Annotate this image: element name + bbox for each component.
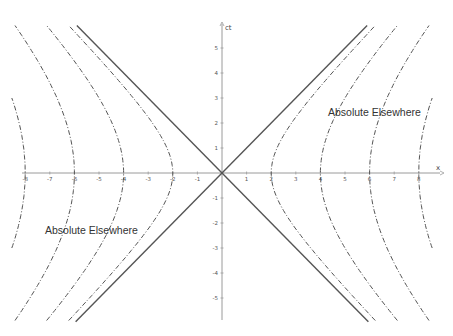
spacetime-diagram: -8-7-6-5-4-3-2-112345678-5-4-3-2-112345 …: [0, 0, 453, 336]
x-tick-label: 5: [343, 176, 347, 182]
y-tick-label: -4: [213, 270, 219, 276]
x-axis-label: x: [436, 164, 440, 172]
x-tick-label: 1: [245, 176, 249, 182]
light-cone-line: [77, 26, 369, 322]
y-tick-label: 2: [215, 120, 219, 126]
y-tick-label: -2: [213, 220, 218, 226]
light-cone-line: [76, 26, 368, 322]
y-tick-label: 1: [215, 145, 219, 151]
y-tick-label: -1: [213, 195, 218, 201]
y-tick-label: 5: [215, 45, 219, 51]
x-tick-label: -7: [47, 176, 53, 182]
y-tick-label: 3: [215, 95, 219, 101]
x-tick-label: -1: [195, 176, 200, 182]
axes: [22, 22, 444, 320]
x-tick-label: 7: [392, 176, 396, 182]
y-tick-label: -5: [213, 295, 219, 301]
x-tick-label: -5: [96, 176, 102, 182]
x-tick-label: 3: [294, 176, 298, 182]
x-axis-arrow: [440, 171, 444, 175]
region-label-right: Absolute Elsewhere: [328, 106, 421, 118]
y-axis-label: ct: [225, 24, 232, 32]
x-tick-label: -3: [145, 176, 151, 182]
y-tick-label: 4: [215, 70, 219, 76]
y-tick-label: -3: [213, 245, 219, 251]
region-label-left: Absolute Elsewhere: [45, 224, 138, 236]
